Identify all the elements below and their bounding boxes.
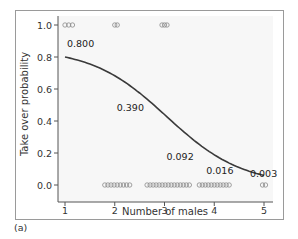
value-annotation: 0.092 [167,151,194,162]
panel-label: (a) [14,222,27,233]
chart: 0.00.20.40.60.81.0 12345 0.8000.3900.092… [0,0,298,239]
x-tick-label: 1 [62,205,68,216]
x-tick-label: 4 [211,205,217,216]
y-tick-label: 0.2 [37,148,52,159]
y-tick-label: 0.8 [37,52,52,63]
y-tick-label: 0.6 [37,84,52,95]
value-annotation: 0.003 [250,168,277,179]
value-annotation: 0.016 [206,165,233,176]
y-tick-label: 0.0 [37,180,52,191]
y-axis-title: Take over probability [19,52,30,157]
x-axis-title: Number of males [122,206,208,217]
value-annotation: 0.800 [67,38,94,49]
x-tick-label: 2 [112,205,118,216]
y-tick-label: 0.4 [37,116,52,127]
x-tick-label: 5 [261,205,267,216]
y-tick-label: 1.0 [37,20,52,31]
value-annotation: 0.390 [117,102,144,113]
y-ticks: 0.00.20.40.60.81.0 [37,20,58,191]
